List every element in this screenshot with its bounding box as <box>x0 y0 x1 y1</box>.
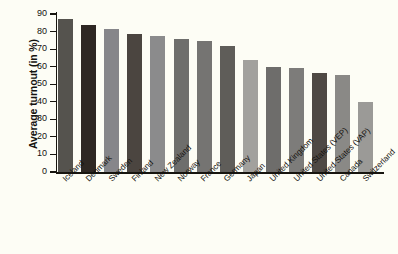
bar-finland <box>127 34 142 172</box>
bar-sweden <box>104 29 119 172</box>
bar-denmark <box>81 25 96 172</box>
bar-france <box>197 41 212 172</box>
x-axis-labels: IcelandDenmarkSwedenFinlandNew ZealandNo… <box>0 173 398 254</box>
bar-new-zealand <box>150 36 165 172</box>
bars-group <box>0 0 398 173</box>
bar-iceland <box>58 19 73 172</box>
bar-chart: Average turnout (in %) 01020304050607080… <box>0 0 398 254</box>
bar-united-kingdom <box>266 67 281 172</box>
bar-germany <box>220 46 235 172</box>
